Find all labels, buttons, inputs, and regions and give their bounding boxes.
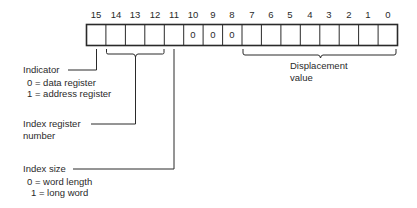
bit-number-10: 10 xyxy=(183,9,203,20)
indicator-title: Indicator xyxy=(23,64,59,75)
bit-number-15: 15 xyxy=(86,9,106,20)
index-size-leader xyxy=(73,49,174,169)
bit-number-11: 11 xyxy=(164,9,184,20)
indicator-leader xyxy=(68,49,97,70)
index-size-option-0: 0 = word length xyxy=(27,176,92,187)
bit-number-7: 7 xyxy=(242,9,262,20)
bit-number-12: 12 xyxy=(145,9,165,20)
cell-value-bit-10: 0 xyxy=(183,29,203,40)
bit-number-4: 4 xyxy=(300,9,320,20)
bit-number-13: 13 xyxy=(125,9,145,20)
displacement-title: Displacement xyxy=(290,60,348,71)
bit-number-1: 1 xyxy=(358,9,378,20)
bit-number-6: 6 xyxy=(261,9,281,20)
bit-field-diagram: 15 14 13 12 11 10 9 8 7 6 5 4 3 2 1 0 0 … xyxy=(0,0,417,208)
displacement-title-line2: value xyxy=(290,72,313,83)
cell-dividers xyxy=(106,25,378,46)
bit-number-3: 3 xyxy=(319,9,339,20)
bit-number-2: 2 xyxy=(339,9,359,20)
bit-number-8: 8 xyxy=(222,9,242,20)
cell-value-bit-9: 0 xyxy=(203,29,223,40)
index-size-title: Index size xyxy=(23,163,66,174)
cell-value-bit-8: 0 xyxy=(222,29,242,40)
bit-number-0: 0 xyxy=(378,9,398,20)
index-register-title-line2: number xyxy=(23,130,55,141)
bit-number-5: 5 xyxy=(280,9,300,20)
index-size-option-1: 1 = long word xyxy=(31,187,88,198)
displacement-bracket xyxy=(243,49,396,58)
indicator-option-1: 1 = address register xyxy=(27,88,111,99)
index-register-bracket xyxy=(107,49,165,57)
indicator-option-0: 0 = data register xyxy=(27,77,96,88)
bit-number-14: 14 xyxy=(106,9,126,20)
bit-number-9: 9 xyxy=(203,9,223,20)
index-register-title: Index register xyxy=(23,118,81,129)
